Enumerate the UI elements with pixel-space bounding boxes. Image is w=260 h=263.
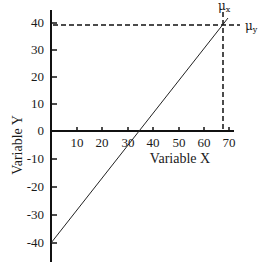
x-axis-title: Variable X bbox=[150, 151, 210, 166]
svg-text:-20: -20 bbox=[27, 179, 44, 194]
chart-canvas: 40 30 20 10 0 -10 -20 -30 -40 10 20 30 4… bbox=[0, 0, 260, 263]
svg-text:-30: -30 bbox=[27, 207, 44, 222]
svg-text:-10: -10 bbox=[27, 151, 44, 166]
mu-y-label: μy bbox=[245, 19, 258, 34]
y-tick-labels: 40 30 20 10 0 -10 -20 -30 -40 bbox=[27, 15, 44, 250]
svg-text:50: 50 bbox=[173, 135, 186, 150]
svg-text:70: 70 bbox=[223, 135, 236, 150]
svg-text:20: 20 bbox=[31, 69, 44, 84]
svg-text:30: 30 bbox=[122, 135, 135, 150]
x-tick-labels: 10 20 30 40 50 60 70 bbox=[71, 135, 236, 150]
y-axis-title: Variable Y bbox=[10, 115, 25, 175]
svg-text:-40: -40 bbox=[27, 235, 44, 250]
svg-text:30: 30 bbox=[31, 42, 44, 57]
svg-text:60: 60 bbox=[198, 135, 211, 150]
svg-text:0: 0 bbox=[38, 123, 45, 138]
svg-text:40: 40 bbox=[147, 135, 160, 150]
svg-text:10: 10 bbox=[31, 96, 44, 111]
svg-text:10: 10 bbox=[71, 135, 84, 150]
mu-x-label: μx bbox=[218, 0, 231, 14]
svg-text:40: 40 bbox=[31, 15, 44, 30]
svg-text:20: 20 bbox=[96, 135, 109, 150]
